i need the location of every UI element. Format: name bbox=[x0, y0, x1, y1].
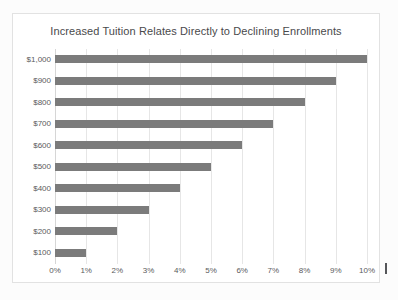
bar-300 bbox=[55, 206, 149, 214]
bar-row bbox=[55, 157, 367, 179]
x-tick-label: 10% bbox=[352, 266, 382, 275]
x-tick-label: 4% bbox=[165, 266, 195, 275]
x-tick-label: 7% bbox=[258, 266, 288, 275]
x-tick-label: 1% bbox=[71, 266, 101, 275]
y-tick-label: $100 bbox=[7, 248, 51, 257]
y-tick-label: $500 bbox=[7, 162, 51, 171]
bar-row bbox=[55, 243, 367, 265]
bar-row bbox=[55, 221, 367, 243]
x-tick-label: 8% bbox=[290, 266, 320, 275]
scan-edge-mark bbox=[385, 263, 387, 274]
chart-title: Increased Tuition Relates Directly to De… bbox=[13, 25, 379, 37]
bar-row bbox=[55, 135, 367, 157]
bar-row bbox=[55, 71, 367, 93]
bar-400 bbox=[55, 184, 180, 192]
bar-row bbox=[55, 49, 367, 71]
x-tick-label: 0% bbox=[40, 266, 70, 275]
bar-row bbox=[55, 92, 367, 114]
x-tick-label: 9% bbox=[321, 266, 351, 275]
x-tick-label: 2% bbox=[102, 266, 132, 275]
y-tick-label: $300 bbox=[7, 205, 51, 214]
x-tick-label: 6% bbox=[227, 266, 257, 275]
x-tick-label: 5% bbox=[196, 266, 226, 275]
bar-700 bbox=[55, 120, 273, 128]
chart-frame: Increased Tuition Relates Directly to De… bbox=[12, 13, 380, 283]
bar-200 bbox=[55, 227, 117, 235]
bar-row bbox=[55, 200, 367, 222]
bar-row bbox=[55, 178, 367, 200]
y-axis-tick-labels: $1,000$900$800$700$600$500$400$300$200$1… bbox=[7, 49, 51, 264]
y-tick-label: $900 bbox=[7, 76, 51, 85]
y-tick-label: $400 bbox=[7, 184, 51, 193]
y-tick-label: $700 bbox=[7, 119, 51, 128]
bar-row bbox=[55, 114, 367, 136]
plot-area: $1,000$900$800$700$600$500$400$300$200$1… bbox=[55, 49, 367, 264]
x-axis-tick-labels: 0%1%2%3%4%5%6%7%8%9%10% bbox=[55, 266, 367, 280]
y-tick-label: $1,000 bbox=[7, 55, 51, 64]
bar-1000 bbox=[55, 55, 367, 63]
bar-100 bbox=[55, 249, 86, 257]
y-tick-label: $600 bbox=[7, 141, 51, 150]
bar-800 bbox=[55, 98, 305, 106]
x-tick-label: 3% bbox=[134, 266, 164, 275]
bar-500 bbox=[55, 163, 211, 171]
bar-900 bbox=[55, 77, 336, 85]
bar-600 bbox=[55, 141, 242, 149]
y-tick-label: $200 bbox=[7, 227, 51, 236]
page-background: Increased Tuition Relates Directly to De… bbox=[0, 0, 398, 300]
gridline-10% bbox=[367, 49, 368, 264]
y-tick-label: $800 bbox=[7, 98, 51, 107]
